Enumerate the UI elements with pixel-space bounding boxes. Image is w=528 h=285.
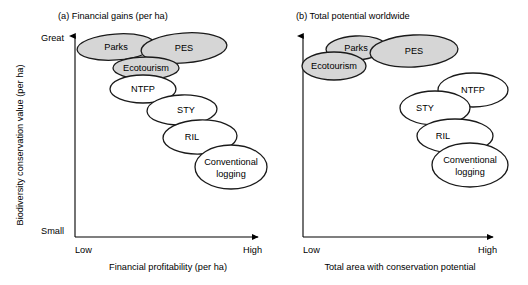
ellipse-label-ecotourism: Ecotourism <box>311 61 357 71</box>
panel-a-title: (a) Financial gains (per ha) <box>58 11 168 21</box>
ellipse-label-parks: Parks <box>344 43 368 53</box>
figure-container: (a) Financial gains (per ha) Biodiversit… <box>0 0 528 285</box>
ellipse-label-ril: RIL <box>436 131 450 141</box>
panel-b-ellipse-group: ParksPESEcotourismNTFPSTYRILConventional… <box>302 33 508 187</box>
ellipse-conventional-logging <box>432 143 508 187</box>
panel-a-x-tick-high: High <box>243 245 262 255</box>
ellipse-label-ntfp: NTFP <box>131 84 155 94</box>
panel-a-y-axis-label: Biodiversity conservation value (per ha) <box>15 65 25 226</box>
ellipse-label-parks: Parks <box>104 42 128 52</box>
panel-b-x-tick-low: Low <box>303 245 320 255</box>
ellipse-label-pes: PES <box>175 43 193 53</box>
panel-b-x-axis-label: Total area with conservation potential <box>324 262 475 272</box>
panel-a-y-tick-small: Small <box>41 226 64 236</box>
panel-b-x-tick-high: High <box>478 245 497 255</box>
panel-b-title: (b) Total potential worldwide <box>296 11 410 21</box>
panel-a: (a) Financial gains (per ha) Biodiversit… <box>15 11 267 272</box>
ellipse-label-ntfp: NTFP <box>461 85 485 95</box>
panel-a-x-tick-low: Low <box>75 245 92 255</box>
ellipse-label-sty: STY <box>177 105 195 115</box>
panel-a-y-tick-great: Great <box>41 33 64 43</box>
figure-svg: (a) Financial gains (per ha) Biodiversit… <box>0 0 528 285</box>
ellipse-conventional-logging <box>195 145 267 189</box>
panel-b: (b) Total potential worldwide Low High T… <box>296 11 508 272</box>
ellipse-shape-conventional-logging <box>195 145 267 189</box>
ellipse-label-sty: STY <box>416 103 434 113</box>
ellipse-label-pes: PES <box>405 46 423 56</box>
ellipse-label-ril: RIL <box>185 132 199 142</box>
panel-a-ellipse-group: ParksPESEcotourismNTFPSTYRILConventional… <box>76 30 267 189</box>
ellipse-label-ecotourism: Ecotourism <box>123 63 169 73</box>
panel-a-x-axis-label: Financial profitability (per ha) <box>109 262 227 272</box>
ellipse-shape-conventional-logging <box>432 143 508 187</box>
